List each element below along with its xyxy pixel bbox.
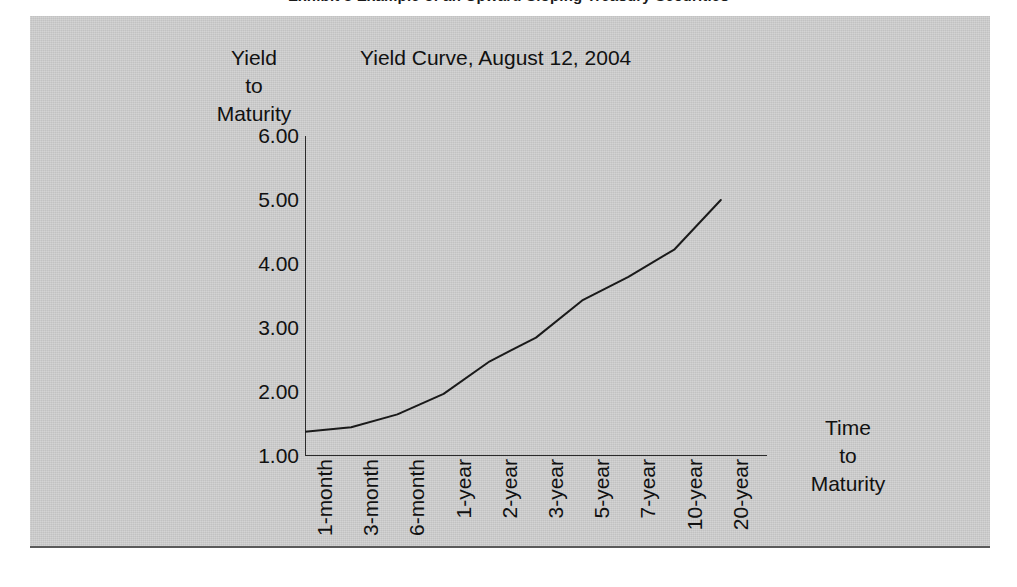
y-axis-tick-label: 2.00: [217, 380, 299, 404]
x-axis-tick-label: 5-year: [590, 459, 614, 519]
y-axis-tick-labels: 1.002.003.004.005.006.00: [213, 136, 299, 456]
x-axis-tick-label: 7-year: [636, 459, 660, 519]
y-axis-title-line-1: Yield: [206, 44, 302, 72]
x-axis-title-line-2: to: [778, 442, 918, 470]
x-axis-tick-label: 3-year: [544, 459, 568, 519]
x-axis-tick-label: 1-month: [313, 459, 337, 536]
x-axis-tick-label-text: 7-year: [636, 459, 660, 519]
x-axis-title-line-3: Maturity: [778, 470, 918, 498]
y-axis-title: Yield to Maturity: [206, 44, 302, 128]
x-axis-tick-label: 20-year: [729, 459, 753, 530]
x-axis-title-line-1: Time: [778, 414, 918, 442]
x-axis-tick-label-text: 3-year: [544, 459, 568, 519]
y-axis-tick-label: 6.00: [217, 124, 299, 148]
figure-panel: Yield Curve, August 12, 2004 Yield to Ma…: [30, 16, 990, 548]
x-axis-tick-label-text: 1-year: [452, 459, 476, 519]
x-axis-tick-label: 1-year: [452, 459, 476, 519]
y-axis-tick-label: 1.00: [217, 444, 299, 468]
x-axis-tick-label: 6-month: [405, 459, 429, 536]
x-axis-title: Time to Maturity: [778, 414, 918, 498]
x-axis-tick-label-text: 1-month: [313, 459, 337, 536]
page-heading: Exhibit 3 Example of an Upward Sloping T…: [0, 0, 1017, 4]
x-axis-tick-label: 3-month: [359, 459, 383, 536]
x-axis-tick-label-text: 20-year: [729, 459, 753, 530]
y-axis-title-line-2: to: [206, 72, 302, 100]
x-axis-tick-label-text: 2-year: [498, 459, 522, 519]
y-axis-tick-label: 4.00: [217, 252, 299, 276]
yield-curve-line: [305, 200, 721, 432]
x-axis-tick-label: 2-year: [498, 459, 522, 519]
chart-title: Yield Curve, August 12, 2004: [360, 46, 631, 70]
x-axis-tick-label-text: 6-month: [405, 459, 429, 536]
x-axis-tick-label-text: 5-year: [590, 459, 614, 519]
plot-area: [305, 136, 767, 456]
x-axis-tick-label-text: 3-month: [359, 459, 383, 536]
x-axis-tick-labels: 1-month3-month6-month1-year2-year3-year5…: [305, 459, 767, 559]
y-axis-tick-label: 3.00: [217, 316, 299, 340]
x-axis-tick-label: 10-year: [683, 459, 707, 530]
y-axis-tick-label: 5.00: [217, 188, 299, 212]
x-axis-tick-label-text: 10-year: [683, 459, 707, 530]
yield-curve-plot: [305, 136, 767, 456]
